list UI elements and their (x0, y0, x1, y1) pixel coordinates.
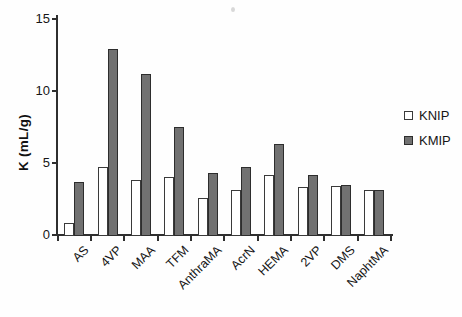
y-axis-title: K (mL/g) (16, 91, 31, 195)
y-tick-label-10: 10 (16, 83, 50, 99)
y-axis-tick-10 (52, 90, 57, 92)
bar-knip-naphtma (364, 190, 374, 236)
x-category-label-2vp: 2VP (298, 243, 325, 270)
bar-kmip-2vp (308, 175, 318, 236)
x-axis-tick-4 (190, 236, 192, 241)
legend-swatch-icon-kmip (404, 136, 413, 145)
x-category-label-as: AS (69, 243, 91, 265)
bar-kmip-anthrama (208, 173, 218, 236)
bar-knip-hema (264, 175, 274, 236)
bar-chart-figure: K (mL/g) 051015AS4VPMAATFMAnthraMAAcrNHE… (0, 0, 462, 317)
legend-entry-knip: KNIP (404, 103, 451, 128)
bar-knip-anthrama (198, 198, 208, 236)
x-axis-tick-5 (223, 236, 225, 241)
x-axis-tick-8 (323, 236, 325, 241)
x-axis-tick-2 (123, 236, 125, 241)
x-axis-tick-3 (157, 236, 159, 241)
legend: KNIPKMIP (404, 103, 451, 153)
bar-knip-tfm (164, 177, 174, 236)
bar-kmip-acrn (241, 167, 251, 236)
bar-knip-maa (131, 180, 141, 236)
x-axis-tick-7 (290, 236, 292, 241)
scan-artifact-dot (231, 7, 235, 12)
bar-knip-dms (331, 186, 341, 236)
bar-kmip-dms (341, 185, 351, 236)
legend-label-kmip: KMIP (419, 133, 451, 148)
x-axis-tick-9 (357, 236, 359, 241)
y-tick-label-15: 15 (16, 11, 50, 27)
y-tick-label-0: 0 (16, 227, 50, 243)
bar-knip-acrn (231, 190, 241, 236)
x-category-label-dms: DMS (328, 243, 358, 273)
bar-kmip-maa (141, 74, 151, 236)
bar-kmip-4vp (108, 49, 118, 236)
bar-knip-4vp (98, 167, 108, 236)
bar-kmip-naphtma (374, 190, 384, 236)
x-category-label-hema: HEMA (256, 243, 291, 278)
x-category-label-acrn: AcrN (228, 243, 258, 273)
x-axis-tick-1 (90, 236, 92, 241)
y-tick-label-5: 5 (16, 155, 50, 171)
bar-kmip-as (74, 182, 84, 236)
x-category-label-maa: MAA (129, 243, 158, 272)
legend-entry-kmip: KMIP (404, 128, 451, 153)
bar-kmip-hema (274, 144, 284, 236)
x-category-label-tfm: TFM (163, 243, 191, 271)
bar-kmip-tfm (174, 127, 184, 236)
y-axis-tick-15 (52, 18, 57, 20)
x-axis-tick-0 (57, 236, 59, 241)
x-category-label-4vp: 4VP (98, 243, 125, 270)
x-axis-tick-6 (257, 236, 259, 241)
bar-knip-as (64, 223, 74, 236)
bar-knip-2vp (298, 187, 308, 236)
legend-swatch-icon-knip (404, 111, 413, 120)
x-axis-tick-10 (390, 236, 392, 241)
y-axis-line (56, 15, 58, 236)
y-axis-tick-5 (52, 162, 57, 164)
legend-label-knip: KNIP (419, 108, 449, 123)
